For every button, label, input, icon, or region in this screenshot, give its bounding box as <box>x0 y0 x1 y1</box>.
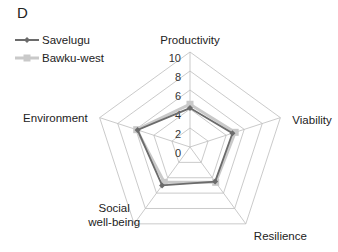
series-line-savelugu <box>138 108 233 185</box>
tick-label-8: 8 <box>175 71 181 83</box>
radar-chart: 0246810ProductivityViabilityResilienceSo… <box>0 0 338 252</box>
tick-label-2: 2 <box>175 128 181 140</box>
axis-label-resilience: Resilience <box>254 230 307 242</box>
series-line-bawku-west <box>137 104 235 182</box>
axis-label-environment: Environment <box>23 112 88 124</box>
axis-label-social-well-being: Socialwell-being <box>87 202 140 228</box>
axis-label-viability: Viability <box>292 114 332 126</box>
tick-label-10: 10 <box>169 52 181 64</box>
tick-label-0: 0 <box>175 147 181 159</box>
tick-label-6: 6 <box>175 90 181 102</box>
axis-label-productivity: Productivity <box>160 34 220 46</box>
